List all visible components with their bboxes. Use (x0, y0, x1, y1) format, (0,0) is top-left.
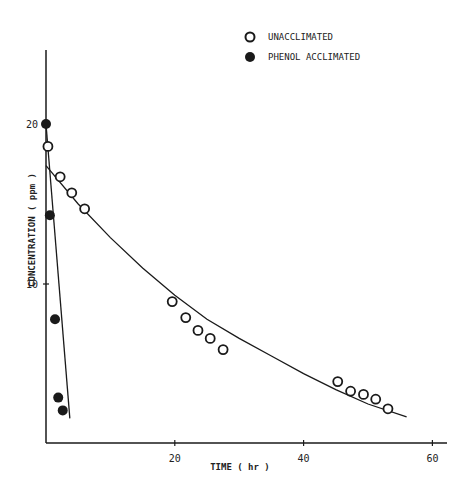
unacclimated-point (359, 390, 368, 399)
unacclimated-point (168, 297, 177, 306)
legend-filled-circle-icon (245, 52, 255, 62)
unacclimated-point (80, 204, 89, 213)
y-axis-title: CONCENTRATION ( ppm ) (27, 173, 37, 287)
chart: 204060 1020 TIME ( hr ) CONCENTRATION ( … (0, 0, 471, 497)
x-axis-title: TIME ( hr ) (210, 462, 270, 472)
unacclimated-point (206, 334, 215, 343)
axes (46, 50, 447, 443)
data-points (41, 119, 392, 415)
unacclimated-point (333, 377, 342, 386)
unacclimated-point (181, 313, 190, 322)
x-tick-label: 40 (298, 453, 310, 464)
legend: UNACCLIMATED PHENOL ACCLIMATED (245, 32, 360, 62)
phenol-acclimated-point (45, 210, 55, 220)
unacclimated-point (56, 172, 65, 181)
unacclimated-point (43, 142, 52, 151)
legend-label-unacclimated: UNACCLIMATED (268, 32, 333, 42)
legend-open-circle-icon (246, 33, 255, 42)
phenol-acclimated-point (58, 405, 68, 415)
x-tick-label: 20 (169, 453, 181, 464)
unacclimated-fit-curve (46, 166, 407, 417)
legend-label-phenol-acclimated: PHENOL ACCLIMATED (268, 52, 360, 62)
unacclimated-point (219, 345, 228, 354)
phenol-acclimated-point (53, 393, 63, 403)
fit-curves (46, 124, 407, 418)
phenol-acclimated-point (50, 314, 60, 324)
phenol-acclimated-fit-line (46, 124, 70, 418)
unacclimated-point (67, 188, 76, 197)
unacclimated-point (346, 387, 355, 396)
unacclimated-point (371, 395, 380, 404)
y-tick-label: 20 (26, 119, 38, 130)
unacclimated-point (383, 404, 392, 413)
phenol-acclimated-point (41, 119, 51, 129)
unacclimated-point (193, 326, 202, 335)
x-tick-label: 60 (426, 453, 438, 464)
